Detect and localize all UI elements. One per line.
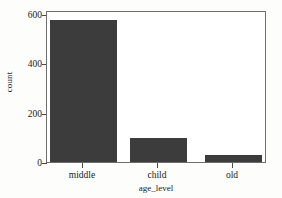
y-tick-label-0: 0: [12, 158, 42, 168]
x-tick-mark-child: [157, 163, 158, 168]
bar-chart-figure: count 0 200 400 600 middle child old age…: [0, 0, 282, 198]
y-tick-mark-0: [42, 163, 47, 164]
bar-middle: [50, 20, 117, 162]
x-tick-mark-middle: [82, 163, 83, 168]
y-tick-label-600: 600: [12, 10, 42, 20]
plot-area: [46, 11, 266, 163]
x-tick-label-old: old: [226, 170, 238, 180]
x-tick-mark-old: [232, 163, 233, 168]
y-tick-label-400: 400: [12, 59, 42, 69]
y-axis-tick-labels: 0 200 400 600: [12, 0, 42, 198]
y-tick-label-200: 200: [12, 109, 42, 119]
x-tick-label-middle: middle: [69, 170, 95, 180]
bar-old: [205, 155, 262, 162]
bar-child: [130, 138, 187, 162]
x-axis-label: age_level: [46, 183, 266, 193]
x-tick-label-child: child: [148, 170, 167, 180]
